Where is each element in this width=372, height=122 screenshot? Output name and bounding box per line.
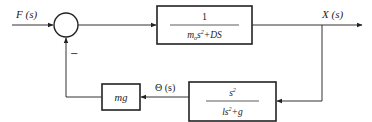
feedback-denominator: ls2+g <box>222 106 243 117</box>
output-label: X (s) <box>321 8 343 21</box>
gain-label: mg <box>115 92 128 103</box>
forward-numerator: 1 <box>202 11 207 22</box>
forward-denominator: mos2+DS <box>187 29 222 41</box>
summing-junction <box>54 13 78 37</box>
feedback-return-line <box>66 38 102 97</box>
minus-sign: − <box>70 48 78 59</box>
input-label: F (s) <box>15 8 37 21</box>
theta-label: Θ (s) <box>155 82 175 94</box>
feedback-pickoff-line <box>277 25 322 101</box>
block-diagram: F (s) 1 mos2+DS X (s) s2 ls2+g Θ (s) mg … <box>0 0 372 122</box>
